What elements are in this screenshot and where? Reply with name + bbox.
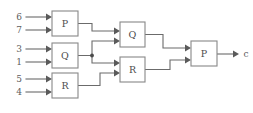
input-label-6: 6 bbox=[16, 12, 22, 22]
input-wire-4 bbox=[26, 89, 52, 96]
wire-r2-to-p3 bbox=[145, 57, 191, 70]
block-p3-label: P bbox=[201, 48, 208, 59]
input-wire-3 bbox=[26, 46, 52, 53]
block-p3[interactable]: P bbox=[191, 41, 217, 66]
wire-q1-to-r2 bbox=[92, 56, 120, 67]
input-label-7: 7 bbox=[16, 25, 22, 35]
input-label-3: 3 bbox=[16, 44, 22, 54]
input-wire-1 bbox=[26, 59, 52, 66]
input-wire-5 bbox=[26, 76, 52, 83]
input-wire-7 bbox=[26, 27, 52, 34]
block-r2[interactable]: R bbox=[120, 57, 145, 82]
input-label-5: 5 bbox=[16, 74, 22, 84]
block-diagram-svg: P Q R Q R P 6 7 3 1 5 bbox=[0, 0, 253, 113]
output-wire-c bbox=[217, 51, 239, 58]
block-q2-label: Q bbox=[129, 29, 137, 40]
wire-q2-to-p3 bbox=[145, 35, 191, 52]
block-q1[interactable]: Q bbox=[52, 43, 78, 68]
block-r1[interactable]: R bbox=[52, 73, 78, 98]
block-q1-label: Q bbox=[61, 50, 69, 61]
wire-r1-to-r2 bbox=[78, 70, 120, 86]
block-r1-label: R bbox=[61, 80, 69, 91]
block-r2-label: R bbox=[129, 64, 137, 75]
wire-p1-to-q2 bbox=[78, 24, 120, 35]
input-label-1: 1 bbox=[16, 57, 22, 67]
block-p1[interactable]: P bbox=[52, 11, 78, 36]
output-label-c: c bbox=[243, 49, 248, 59]
input-label-4: 4 bbox=[16, 87, 22, 97]
block-diagram-canvas: P Q R Q R P 6 7 3 1 5 bbox=[0, 0, 253, 113]
wire-q1-to-q2 bbox=[78, 38, 120, 56]
block-p1-label: P bbox=[62, 18, 69, 29]
junction-dot-q1-output bbox=[90, 54, 94, 58]
block-q2[interactable]: Q bbox=[120, 22, 145, 47]
input-wire-6 bbox=[26, 14, 52, 21]
